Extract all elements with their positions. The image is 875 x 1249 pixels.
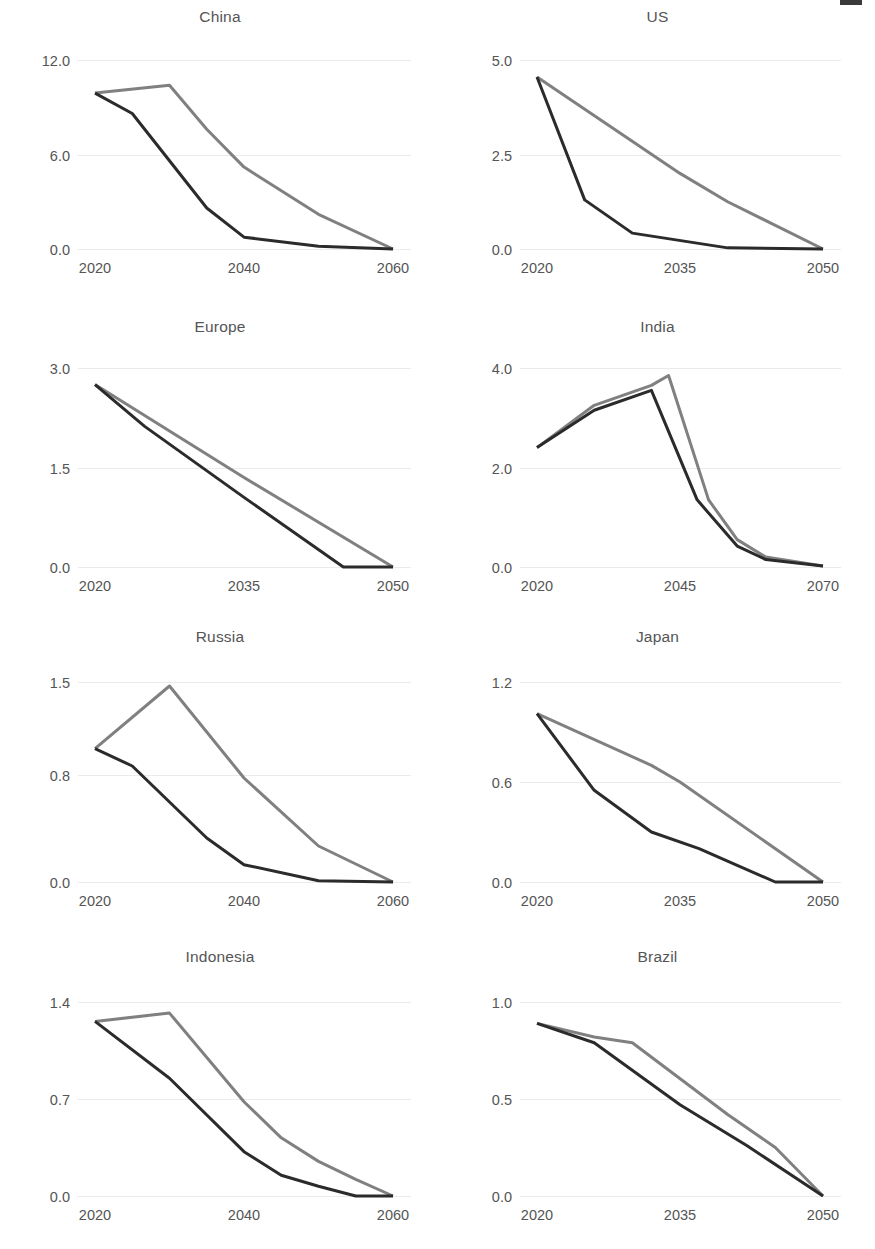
- y-axis-tick-label: 0.0: [50, 242, 70, 258]
- chart-panel-brazil: Brazil0.00.51.0202020352050: [440, 940, 875, 1249]
- x-axis-tick-label: 2020: [521, 893, 553, 909]
- y-axis-tick-label: 1.5: [50, 675, 70, 691]
- chart-canvas: 0.02.55.0202020352050: [440, 0, 875, 310]
- y-axis-tick-label: 2.5: [492, 148, 512, 164]
- x-axis-tick-label: 2020: [79, 893, 111, 909]
- x-axis-tick-label: 2045: [664, 578, 696, 594]
- series-line-dark: [537, 77, 823, 249]
- series-line-gray: [537, 1023, 823, 1196]
- x-axis-tick-label: 2020: [79, 260, 111, 276]
- x-axis-tick-label: 2020: [79, 578, 111, 594]
- series-line-gray: [537, 375, 823, 566]
- x-axis-tick-label: 2070: [807, 578, 839, 594]
- y-axis-tick-label: 3.0: [50, 361, 70, 377]
- chart-panel-us: US0.02.55.0202020352050: [440, 0, 875, 310]
- y-axis-tick-label: 0.0: [492, 875, 512, 891]
- x-axis-tick-label: 2035: [664, 260, 696, 276]
- y-axis-tick-label: 0.0: [50, 560, 70, 576]
- x-axis-tick-label: 2050: [807, 260, 839, 276]
- chart-panel-japan: Japan0.00.61.2202020352050: [440, 620, 875, 940]
- x-axis-tick-label: 2020: [79, 1207, 111, 1223]
- small-multiples-grid: China0.06.012.0202020402060US0.02.55.020…: [0, 0, 875, 1249]
- chart-canvas: 0.01.53.0202020352050: [0, 310, 440, 620]
- y-axis-tick-label: 6.0: [50, 148, 70, 164]
- x-axis-tick-label: 2020: [521, 1207, 553, 1223]
- series-line-gray: [95, 85, 393, 249]
- series-line-dark: [95, 1021, 393, 1196]
- y-axis-tick-label: 2.0: [492, 461, 512, 477]
- y-axis-tick-label: 5.0: [492, 53, 512, 69]
- chart-canvas: 0.00.81.5202020402060: [0, 620, 440, 940]
- x-axis-tick-label: 2050: [377, 578, 409, 594]
- y-axis-tick-label: 0.7: [50, 1092, 70, 1108]
- y-axis-tick-label: 4.0: [492, 361, 512, 377]
- x-axis-tick-label: 2020: [521, 260, 553, 276]
- x-axis-tick-label: 2060: [377, 893, 409, 909]
- y-axis-tick-label: 0.0: [492, 1189, 512, 1205]
- series-line-dark: [537, 714, 823, 882]
- y-axis-tick-label: 1.4: [50, 995, 70, 1011]
- corner-artifact: [840, 0, 862, 7]
- y-axis-tick-label: 0.0: [50, 875, 70, 891]
- x-axis-tick-label: 2035: [228, 578, 260, 594]
- chart-canvas: 0.06.012.0202020402060: [0, 0, 440, 310]
- chart-panel-india: India0.02.04.0202020452070: [440, 310, 875, 620]
- series-line-gray: [95, 385, 393, 567]
- y-axis-tick-label: 0.8: [50, 768, 70, 784]
- y-axis-tick-label: 1.5: [50, 461, 70, 477]
- y-axis-tick-label: 0.0: [50, 1189, 70, 1205]
- series-line-gray: [537, 77, 823, 249]
- y-axis-tick-label: 0.5: [492, 1092, 512, 1108]
- x-axis-tick-label: 2050: [807, 893, 839, 909]
- y-axis-tick-label: 1.0: [492, 995, 512, 1011]
- series-line-gray: [95, 686, 393, 882]
- y-axis-tick-label: 0.6: [492, 775, 512, 791]
- series-line-dark: [537, 1023, 823, 1196]
- x-axis-tick-label: 2040: [228, 893, 260, 909]
- chart-panel-europe: Europe0.01.53.0202020352050: [0, 310, 440, 620]
- x-axis-tick-label: 2040: [228, 260, 260, 276]
- chart-panel-china: China0.06.012.0202020402060: [0, 0, 440, 310]
- chart-panel-indonesia: Indonesia0.00.71.4202020402060: [0, 940, 440, 1249]
- y-axis-tick-label: 1.2: [492, 675, 512, 691]
- chart-panel-russia: Russia0.00.81.5202020402060: [0, 620, 440, 940]
- x-axis-tick-label: 2050: [807, 1207, 839, 1223]
- chart-canvas: 0.00.71.4202020402060: [0, 940, 440, 1249]
- chart-canvas: 0.00.61.2202020352050: [440, 620, 875, 940]
- x-axis-tick-label: 2035: [664, 1207, 696, 1223]
- y-axis-tick-label: 0.0: [492, 242, 512, 258]
- series-line-gray: [95, 1013, 393, 1196]
- series-line-gray: [537, 714, 823, 882]
- x-axis-tick-label: 2020: [521, 578, 553, 594]
- x-axis-tick-label: 2060: [377, 1207, 409, 1223]
- x-axis-tick-label: 2040: [228, 1207, 260, 1223]
- chart-canvas: 0.00.51.0202020352050: [440, 940, 875, 1249]
- chart-canvas: 0.02.04.0202020452070: [440, 310, 875, 620]
- y-axis-tick-label: 12.0: [42, 53, 70, 69]
- series-line-dark: [95, 93, 393, 249]
- x-axis-tick-label: 2060: [377, 260, 409, 276]
- y-axis-tick-label: 0.0: [492, 560, 512, 576]
- x-axis-tick-label: 2035: [664, 893, 696, 909]
